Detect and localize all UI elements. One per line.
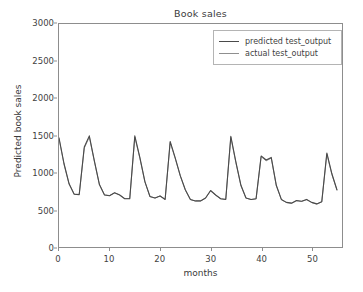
y-tick-label: 1000 xyxy=(20,168,54,178)
y-tick-label: 2500 xyxy=(20,56,54,66)
legend-line-swatch-actual xyxy=(219,53,239,54)
x-tick-mark xyxy=(109,248,110,251)
x-tick-label: 10 xyxy=(93,254,125,264)
y-tick-mark xyxy=(54,23,57,24)
y-tick-mark xyxy=(54,135,57,136)
series-line xyxy=(59,136,337,204)
y-tick-label: 0 xyxy=(20,243,54,253)
x-axis-ticks: 01020304050 xyxy=(58,248,343,270)
y-tick-label: 3000 xyxy=(20,18,54,28)
x-tick-label: 30 xyxy=(195,254,227,264)
y-tick-mark xyxy=(54,248,57,249)
legend-item: actual test_output xyxy=(219,48,336,59)
y-tick-label: 2000 xyxy=(20,93,54,103)
x-tick-label: 40 xyxy=(246,254,278,264)
legend-label-predicted: predicted test_output xyxy=(245,37,331,46)
y-tick-mark xyxy=(54,60,57,61)
x-axis-label: months xyxy=(58,268,343,278)
x-tick-mark xyxy=(262,248,263,251)
legend-line-swatch-predicted xyxy=(219,41,239,42)
x-tick-label: 50 xyxy=(296,254,328,264)
x-tick-mark xyxy=(211,248,212,251)
series-line xyxy=(59,137,337,204)
chart-title: Book sales xyxy=(58,8,343,19)
y-tick-mark xyxy=(54,98,57,99)
x-tick-label: 20 xyxy=(144,254,176,264)
legend-label-actual: actual test_output xyxy=(245,49,318,58)
x-tick-mark xyxy=(312,248,313,251)
x-tick-mark xyxy=(58,248,59,251)
y-tick-mark xyxy=(54,210,57,211)
y-tick-label: 1500 xyxy=(20,131,54,141)
chart-figure: Book sales Predicted book sales 05001000… xyxy=(0,0,363,292)
x-tick-mark xyxy=(160,248,161,251)
chart-legend: predicted test_output actual test_output xyxy=(213,30,342,65)
legend-item: predicted test_output xyxy=(219,36,336,47)
y-axis-ticks: 050010001500200025003000 xyxy=(16,23,54,248)
x-tick-label: 0 xyxy=(42,254,74,264)
y-tick-label: 500 xyxy=(20,206,54,216)
y-tick-mark xyxy=(54,173,57,174)
